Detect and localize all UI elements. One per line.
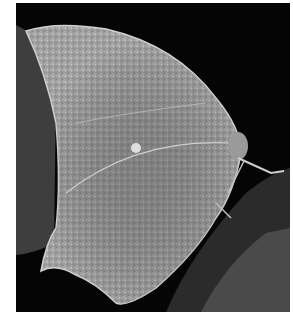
butterfly-photo [16,3,290,312]
butterfly-illustration [16,3,290,312]
butterfly-head [228,132,248,160]
